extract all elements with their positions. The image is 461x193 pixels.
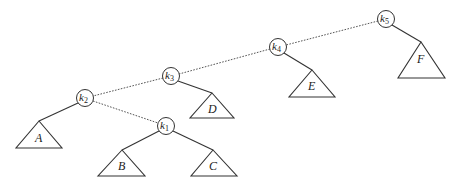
subtree-B: B bbox=[98, 150, 145, 176]
subtree-E: E bbox=[289, 70, 335, 97]
edge-k3-D bbox=[178, 81, 212, 93]
subtree-label-C: C bbox=[209, 159, 218, 173]
subtree-D: D bbox=[190, 93, 234, 118]
subtree-label-D: D bbox=[207, 102, 217, 116]
subtree-label-E: E bbox=[307, 79, 316, 93]
edge-k2-k1 bbox=[93, 101, 158, 123]
subtree-label-A: A bbox=[34, 131, 43, 145]
node-k3: k3 bbox=[163, 68, 180, 85]
subtree-A: A bbox=[16, 121, 62, 148]
subtree-label-B: B bbox=[118, 159, 126, 173]
edge-k1-C bbox=[173, 131, 213, 150]
subtree-label-F: F bbox=[416, 52, 425, 66]
edge-k1-B bbox=[122, 131, 159, 150]
tree-diagram: F E D A B C k5 k4 k3 k2 k1 bbox=[0, 0, 461, 193]
edge-k5-k4 bbox=[286, 21, 378, 45]
subtree-F: F bbox=[398, 42, 445, 78]
node-k1: k1 bbox=[158, 118, 175, 135]
edge-k3-k2 bbox=[93, 78, 163, 96]
subtree-C: C bbox=[191, 150, 237, 176]
edge-k2-A bbox=[39, 103, 78, 121]
node-k5: k5 bbox=[378, 11, 395, 28]
node-k2: k2 bbox=[77, 90, 94, 107]
edge-k4-k3 bbox=[179, 49, 270, 74]
edge-k4-E bbox=[284, 53, 312, 70]
edge-k5-F bbox=[392, 25, 421, 42]
node-k4: k4 bbox=[270, 39, 287, 56]
